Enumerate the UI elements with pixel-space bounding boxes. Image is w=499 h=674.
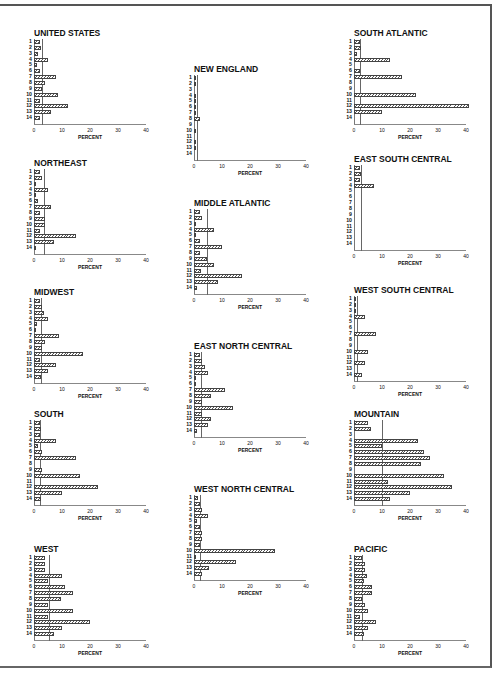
bar bbox=[34, 568, 45, 572]
x-tick-label: 20 bbox=[247, 440, 253, 446]
x-tick-label: 30 bbox=[115, 508, 121, 514]
bar bbox=[34, 556, 45, 560]
x-tick-label: 30 bbox=[115, 257, 121, 263]
bar bbox=[354, 439, 418, 443]
x-tick-label: 40 bbox=[143, 508, 149, 514]
x-axis bbox=[354, 505, 466, 506]
x-tick-label: 0 bbox=[33, 386, 36, 392]
bar bbox=[354, 574, 367, 578]
plot-area: 1234567891011121314010203040PERCENT bbox=[354, 39, 466, 125]
plot-area: 1234567891011121314010203040PERCENT bbox=[354, 165, 466, 251]
chart-panel-united-states: UNITED STATES123456789101112131401020304… bbox=[20, 28, 170, 143]
x-tick-label: 20 bbox=[87, 643, 93, 649]
x-axis bbox=[34, 640, 146, 641]
x-tick-label: 30 bbox=[435, 127, 441, 133]
chart-title: MOUNTAIN bbox=[354, 409, 399, 419]
bar bbox=[34, 69, 40, 73]
x-axis bbox=[354, 250, 466, 251]
bar bbox=[354, 568, 365, 572]
bar bbox=[34, 369, 48, 373]
plot-area: 1234567891011121314010203040PERCENT bbox=[354, 420, 466, 506]
bar bbox=[34, 229, 40, 233]
bar bbox=[34, 110, 51, 114]
bar bbox=[34, 104, 68, 108]
bar bbox=[194, 514, 208, 518]
x-tick-label: 10 bbox=[379, 508, 385, 514]
x-tick-label: 30 bbox=[115, 386, 121, 392]
chart-panel-south-atlantic: SOUTH ATLANTIC12345678910111213140102030… bbox=[340, 28, 490, 143]
bar bbox=[354, 373, 362, 377]
bar bbox=[194, 274, 242, 278]
bar bbox=[34, 188, 48, 192]
bar bbox=[34, 474, 80, 478]
x-axis-label: PERCENT bbox=[78, 650, 102, 656]
bar bbox=[194, 105, 196, 109]
bar bbox=[34, 93, 58, 97]
bar bbox=[34, 311, 44, 315]
bar bbox=[354, 46, 361, 50]
bar bbox=[34, 346, 42, 350]
bar bbox=[354, 104, 469, 108]
x-tick-label: 10 bbox=[379, 643, 385, 649]
x-tick-label: 20 bbox=[407, 253, 413, 259]
bar bbox=[34, 234, 76, 238]
bar bbox=[34, 439, 56, 443]
category-label: 14 bbox=[182, 150, 192, 157]
bar bbox=[354, 184, 374, 188]
x-tick-label: 0 bbox=[353, 253, 356, 259]
bar bbox=[34, 305, 42, 309]
x-axis-label: PERCENT bbox=[398, 134, 422, 140]
bar bbox=[34, 585, 65, 589]
plot-area: 1234567891011121314010203040PERCENT bbox=[34, 169, 146, 255]
bar bbox=[34, 491, 62, 495]
chart-panel-east-north-central: EAST NORTH CENTRAL1234567891011121314010… bbox=[180, 341, 330, 456]
bar-row: 14 bbox=[22, 245, 152, 251]
x-tick-label: 20 bbox=[247, 163, 253, 169]
bar bbox=[194, 543, 200, 547]
bar bbox=[354, 421, 368, 425]
chart-panel-northeast: NORTHEAST1234567891011121314010203040PER… bbox=[20, 158, 170, 273]
plot-area: 1234567891011121314010203040PERCENT bbox=[34, 555, 146, 641]
bar bbox=[34, 46, 41, 50]
x-axis-label: PERCENT bbox=[78, 134, 102, 140]
bar bbox=[354, 309, 356, 313]
bar bbox=[194, 353, 200, 357]
bar bbox=[34, 427, 41, 431]
x-tick-label: 40 bbox=[463, 127, 469, 133]
x-tick-label: 10 bbox=[379, 127, 385, 133]
chart-title: EAST SOUTH CENTRAL bbox=[354, 154, 452, 164]
bar-row: 14 bbox=[182, 285, 312, 291]
chart-panel-new-england: NEW ENGLAND1234567891011121314010203040P… bbox=[180, 64, 330, 179]
x-axis bbox=[354, 640, 466, 641]
x-tick-label: 40 bbox=[303, 297, 309, 303]
bar bbox=[34, 217, 45, 221]
x-tick-label: 30 bbox=[275, 163, 281, 169]
bar bbox=[34, 240, 54, 244]
bar bbox=[34, 211, 40, 215]
bar bbox=[34, 363, 56, 367]
x-tick-label: 0 bbox=[33, 643, 36, 649]
bar bbox=[34, 246, 36, 250]
category-label: 14 bbox=[22, 114, 32, 121]
bar bbox=[34, 433, 40, 437]
plot-area: 1234567891011121314010203040PERCENT bbox=[34, 39, 146, 125]
bar-row: 14 bbox=[342, 241, 472, 247]
bar bbox=[194, 549, 275, 553]
x-tick-label: 0 bbox=[193, 440, 196, 446]
category-label: 14 bbox=[342, 240, 352, 247]
x-tick-label: 40 bbox=[143, 386, 149, 392]
x-tick-label: 10 bbox=[59, 127, 65, 133]
x-axis-label: PERCENT bbox=[238, 170, 262, 176]
bar bbox=[354, 597, 362, 601]
x-tick-label: 40 bbox=[463, 508, 469, 514]
bar bbox=[354, 303, 356, 307]
x-tick-label: 20 bbox=[87, 127, 93, 133]
bar bbox=[194, 555, 196, 559]
bar bbox=[34, 615, 48, 619]
plot-area: 1234567891011121314010203040PERCENT bbox=[34, 298, 146, 384]
bar bbox=[354, 350, 368, 354]
chart-title: SOUTH ATLANTIC bbox=[354, 28, 428, 38]
bar bbox=[194, 216, 202, 220]
x-axis bbox=[34, 505, 146, 506]
bar bbox=[354, 462, 421, 466]
